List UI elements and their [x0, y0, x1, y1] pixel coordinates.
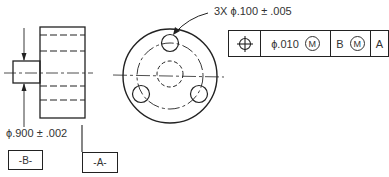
- feature-control-frame: ϕ.010 M B M A: [228, 30, 389, 57]
- fcf-datum-a-cell: A: [371, 31, 388, 56]
- fcf-symbol-cell: [229, 31, 261, 56]
- arrowhead-icon: [22, 83, 27, 91]
- boss-dimension: ϕ.900 ± .002: [6, 128, 67, 139]
- side-view-body: [40, 27, 85, 118]
- fcf-tolerance-cell: ϕ.010 M: [261, 31, 331, 56]
- position-icon: [236, 35, 254, 53]
- hole-lower-right: [191, 86, 208, 103]
- fcf-datum-b: B: [336, 38, 343, 50]
- fcf-datum-b-cell: B M: [331, 31, 371, 56]
- side-view-boss: [13, 61, 40, 83]
- center-bore-hidden: [157, 61, 183, 87]
- mmc-modifier-icon: M: [305, 36, 320, 51]
- hole-callout: 3X ϕ.100 ± .005: [214, 6, 292, 17]
- hole-lower-left: [133, 86, 150, 103]
- datum-a-box: -A-: [82, 152, 118, 173]
- drawing-canvas: [0, 0, 389, 177]
- centerline: [113, 75, 224, 77]
- arrowhead-icon: [22, 53, 27, 61]
- datum-b-box: -B-: [8, 150, 43, 170]
- fcf-tolerance: ϕ.010: [271, 38, 299, 50]
- mmc-modifier-icon: M: [350, 36, 365, 51]
- fcf-datum-a: A: [376, 38, 383, 50]
